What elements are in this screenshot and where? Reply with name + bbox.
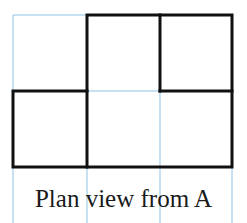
- caption: Plan view from A: [0, 185, 247, 213]
